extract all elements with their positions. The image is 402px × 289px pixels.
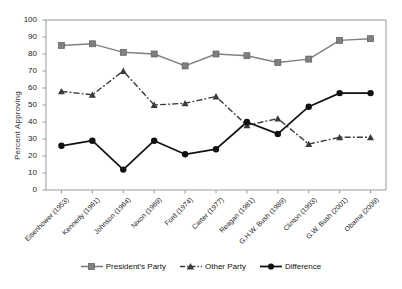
data-point-marker: [336, 90, 342, 96]
data-point-marker: [58, 43, 64, 49]
data-point-marker: [367, 90, 373, 96]
data-point-marker: [275, 131, 281, 137]
data-point-marker: [182, 151, 188, 157]
plot-area: [0, 0, 402, 289]
data-point-marker: [306, 104, 312, 110]
data-point-marker: [151, 138, 157, 144]
legend-swatch-circle-icon: [260, 262, 282, 271]
data-point-marker: [274, 115, 281, 121]
chart-container: Percent Approving 0102030405060708090100…: [0, 0, 402, 289]
data-point-marker: [244, 53, 250, 59]
legend-swatch-square-icon: [81, 262, 103, 271]
legend-label: President's Party: [106, 262, 166, 271]
data-point-marker: [213, 51, 219, 57]
data-point-marker: [244, 119, 250, 125]
chart-legend: President's Party Other Party Difference: [0, 262, 402, 271]
data-point-marker: [89, 138, 95, 144]
data-point-marker: [367, 134, 374, 140]
data-point-marker: [89, 41, 95, 47]
data-point-marker: [120, 49, 126, 55]
data-point-marker: [120, 166, 126, 172]
legend-item-presidents-party[interactable]: President's Party: [81, 262, 166, 271]
data-point-marker: [337, 37, 343, 43]
data-point-marker: [275, 60, 281, 66]
data-point-marker: [213, 93, 220, 99]
data-point-marker: [120, 68, 127, 74]
data-point-marker: [213, 146, 219, 152]
legend-label: Other Party: [205, 262, 246, 271]
data-point-marker: [58, 143, 64, 149]
data-point-marker: [151, 51, 157, 57]
series-line-other-party: [61, 71, 370, 144]
series-line-difference: [61, 93, 370, 170]
legend-item-other-party[interactable]: Other Party: [180, 262, 246, 271]
data-point-marker: [182, 63, 188, 69]
legend-label: Difference: [285, 262, 321, 271]
legend-item-difference[interactable]: Difference: [260, 262, 321, 271]
data-point-marker: [368, 36, 374, 42]
data-point-marker: [306, 56, 312, 62]
legend-swatch-triangle-icon: [180, 262, 202, 271]
